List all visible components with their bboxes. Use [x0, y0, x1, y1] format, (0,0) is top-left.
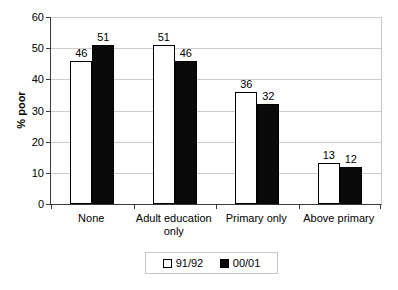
y-tick-mark-50 — [46, 48, 50, 49]
y-tick-label-50: 50 — [16, 42, 44, 54]
y-tick-label-20: 20 — [16, 136, 44, 148]
bar-value-label: 32 — [252, 90, 284, 102]
legend: 91/9200/01 — [145, 252, 278, 274]
bar-9192-1 — [153, 45, 175, 204]
x-category-label-3: Above primary — [293, 212, 385, 225]
bar-chart: % poor 0102030405060 4651514636321312 No… — [0, 0, 398, 290]
x-tick-mark-1 — [134, 205, 135, 209]
gridline-60 — [51, 17, 381, 18]
bar-0001-0 — [92, 45, 114, 204]
y-tick-mark-60 — [46, 17, 50, 18]
bar-0001-1 — [175, 61, 197, 204]
y-tick-mark-40 — [46, 79, 50, 80]
bar-9192-0 — [70, 61, 92, 204]
y-tick-mark-20 — [46, 142, 50, 143]
bar-9192-3 — [318, 163, 340, 204]
legend-swatch-0001 — [220, 259, 229, 268]
bar-0001-2 — [257, 104, 279, 204]
bar-value-label: 51 — [87, 31, 119, 43]
y-tick-mark-10 — [46, 173, 50, 174]
bar-value-label: 36 — [230, 78, 262, 90]
y-tick-label-60: 60 — [16, 11, 44, 23]
x-category-label-1: Adult education only — [128, 212, 220, 238]
y-tick-label-30: 30 — [16, 105, 44, 117]
y-tick-label-0: 0 — [16, 198, 44, 210]
y-tick-mark-30 — [46, 111, 50, 112]
bar-0001-3 — [340, 167, 362, 204]
y-tick-mark-0 — [46, 204, 50, 205]
x-category-label-0: None — [45, 212, 137, 225]
bar-9192-2 — [235, 92, 257, 204]
legend-item-9192: 91/92 — [163, 257, 204, 269]
x-tick-mark-4 — [380, 205, 381, 209]
x-tick-mark-3 — [299, 205, 300, 209]
legend-label: 00/01 — [233, 257, 261, 269]
bar-value-label: 46 — [170, 47, 202, 59]
legend-item-0001: 00/01 — [220, 257, 261, 269]
x-tick-mark-2 — [216, 205, 217, 209]
y-tick-label-10: 10 — [16, 167, 44, 179]
x-axis-category-labels: NoneAdult education onlyPrimary onlyAbov… — [50, 212, 380, 242]
plot-area: 4651514636321312 — [50, 17, 382, 205]
legend-label: 91/92 — [176, 257, 204, 269]
legend-swatch-9192 — [163, 259, 172, 268]
x-category-label-2: Primary only — [210, 212, 302, 225]
bar-value-label: 12 — [335, 153, 367, 165]
y-tick-label-40: 40 — [16, 73, 44, 85]
bar-value-label: 51 — [148, 31, 180, 43]
x-tick-mark-0 — [51, 205, 52, 209]
